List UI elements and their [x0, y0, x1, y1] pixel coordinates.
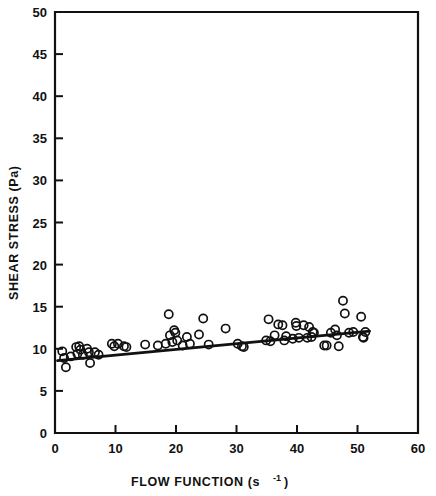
x-axis-title-exponent: -1: [273, 473, 281, 483]
x-tick-label-60: 60: [411, 441, 425, 456]
x-axis-title: FLOW FUNCTION (s -1 ): [131, 473, 289, 489]
y-tick-label-0: 0: [40, 426, 47, 441]
data-point: [222, 324, 230, 332]
x-axis-ticks: [116, 425, 358, 433]
x-tick-label-0: 0: [51, 441, 58, 456]
x-tick-label-20: 20: [169, 441, 183, 456]
data-point: [335, 342, 343, 350]
data-point: [339, 297, 347, 305]
data-point: [271, 331, 279, 339]
scatter-plot: SHEAR STRESS (Pa) FLOW FUNCTION (s -1 ) …: [0, 0, 436, 496]
y-tick-label-20: 20: [33, 258, 47, 273]
data-point: [195, 330, 203, 338]
y-tick-label-25: 25: [33, 216, 47, 231]
data-point: [154, 341, 162, 349]
y-tick-label-35: 35: [33, 131, 47, 146]
plot-frame: [55, 12, 418, 433]
y-tick-label-5: 5: [40, 384, 47, 399]
x-tick-label-30: 30: [229, 441, 243, 456]
x-tick-label-10: 10: [108, 441, 122, 456]
y-tick-label-45: 45: [33, 47, 47, 62]
y-axis-title-text: SHEAR STRESS (Pa): [7, 165, 21, 300]
chart-figure: SHEAR STRESS (Pa) FLOW FUNCTION (s -1 ) …: [0, 0, 436, 496]
x-tick-label-50: 50: [350, 441, 364, 456]
x-axis-title-base: FLOW FUNCTION (s: [131, 475, 260, 489]
y-tick-label-30: 30: [33, 173, 47, 188]
data-point: [264, 315, 272, 323]
data-point: [357, 313, 365, 321]
y-tick-label-10: 10: [33, 342, 47, 357]
y-tick-label-40: 40: [33, 89, 47, 104]
y-axis-tick-labels: 05101520253035404550: [33, 5, 47, 441]
y-axis-title: SHEAR STRESS (Pa): [7, 165, 21, 300]
data-point: [62, 363, 70, 371]
x-axis-title-suffix: ): [284, 475, 289, 489]
data-point: [86, 359, 94, 367]
x-axis-tick-labels: 0102030405060: [51, 441, 425, 456]
y-tick-label-15: 15: [33, 300, 47, 315]
y-tick-label-50: 50: [33, 5, 47, 20]
data-point: [141, 340, 149, 348]
data-point: [341, 309, 349, 317]
data-point: [165, 310, 173, 318]
x-tick-label-40: 40: [290, 441, 304, 456]
data-point: [199, 314, 207, 322]
data-points: [58, 297, 369, 372]
